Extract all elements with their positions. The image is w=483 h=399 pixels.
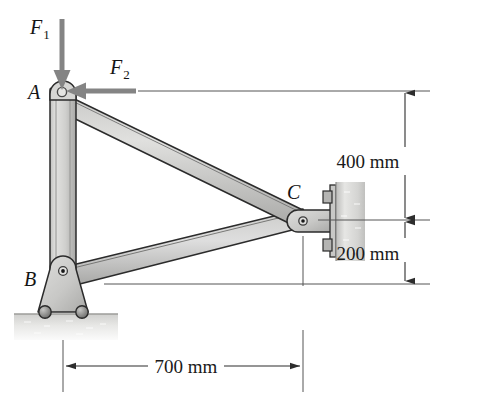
force-F1: F1 (29, 16, 71, 90)
member-BC (60, 209, 308, 288)
member-AC-body (57, 92, 311, 231)
wall-bolt-top (323, 191, 332, 203)
joint-B-roller-right (76, 306, 88, 318)
force-F1-label: F1 (29, 16, 50, 42)
force-F1-subscript: 1 (43, 27, 50, 42)
joint-C-label: C (287, 181, 301, 203)
wall-bolt-bottom (323, 239, 332, 251)
force-F1-symbol: F (29, 16, 43, 38)
joint-B-roller-left (39, 306, 51, 318)
ground-support (14, 314, 118, 340)
joint-C-pin-center (301, 219, 305, 223)
dimension-700mm: 700 mm (66, 356, 300, 377)
member-AC (57, 92, 311, 231)
dim-700-label: 700 mm (155, 356, 218, 377)
dim-200-label: 200 mm (337, 243, 400, 264)
force-F2-label: F2 (109, 56, 130, 82)
member-BC-highlight (61, 212, 303, 271)
joint-B-pin-center (61, 269, 65, 273)
force-F2-subscript: 2 (123, 67, 130, 82)
member-BC-body (60, 209, 308, 288)
joint-A-label: A (26, 81, 41, 103)
force-F2-symbol: F (109, 56, 123, 78)
ground-hatch-block (14, 314, 118, 340)
joint-B-label: B (24, 268, 36, 290)
figure-canvas: A B C (0, 0, 483, 399)
force-F2: F2 (66, 56, 136, 100)
statics-figure: A B C (0, 0, 483, 399)
joint-C-bracket (287, 210, 331, 232)
dim-400-label: 400 mm (337, 151, 400, 172)
member-AC-highlight (62, 96, 308, 216)
